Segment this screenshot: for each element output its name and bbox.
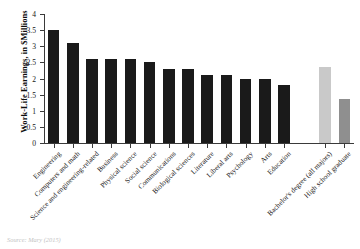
y-tick-mark	[40, 14, 45, 15]
y-tick-label: 4	[32, 10, 36, 19]
bar	[144, 62, 156, 143]
x-tick-mark	[111, 144, 112, 148]
bar	[163, 69, 175, 143]
bar	[201, 75, 213, 143]
x-tick-mark	[169, 144, 170, 148]
x-axis-category-label: Arts	[259, 150, 274, 165]
bar	[259, 79, 271, 144]
x-tick-mark	[265, 144, 266, 148]
y-tick-mark	[40, 62, 45, 63]
bar	[339, 99, 351, 143]
x-tick-mark	[130, 144, 131, 148]
y-tick-mark	[40, 46, 45, 47]
x-tick-mark	[92, 144, 93, 148]
x-tick-mark	[284, 144, 285, 148]
y-tick-mark	[40, 79, 45, 80]
y-tick-mark	[40, 143, 45, 144]
y-tick-label: 1	[32, 106, 36, 115]
bar	[221, 75, 233, 143]
bar	[105, 59, 117, 143]
y-tick-label: 1.5	[27, 90, 37, 99]
work-life-earnings-bar-chart: Work-Life Earnings, in $Millions 00.511.…	[0, 0, 360, 249]
bar	[240, 79, 252, 144]
y-tick-label: 2.5	[27, 58, 37, 67]
x-tick-mark	[246, 144, 247, 148]
x-tick-mark	[150, 144, 151, 148]
x-tick-mark	[188, 144, 189, 148]
bar	[86, 59, 98, 143]
y-tick-mark	[40, 95, 45, 96]
x-tick-mark	[54, 144, 55, 148]
x-tick-mark	[344, 144, 345, 148]
x-tick-mark	[207, 144, 208, 148]
bar	[67, 43, 79, 143]
y-tick-mark	[40, 127, 45, 128]
bar	[125, 59, 137, 143]
y-tick-mark	[40, 30, 45, 31]
x-tick-mark	[73, 144, 74, 148]
y-tick-label: 0.5	[27, 122, 37, 131]
y-tick-label: 3.5	[27, 26, 37, 35]
x-tick-mark	[325, 144, 326, 148]
x-axis-line	[44, 143, 354, 144]
y-tick-mark	[40, 111, 45, 112]
x-tick-mark	[226, 144, 227, 148]
bar	[182, 69, 194, 143]
bar	[48, 30, 60, 143]
y-tick-label: 3	[32, 42, 36, 51]
plot-area: 00.511.522.533.54 EngineeringComputers a…	[44, 14, 354, 143]
bar	[278, 85, 290, 143]
y-tick-label: 2	[32, 74, 36, 83]
figure-caption: Source: Mary (2015)	[7, 236, 61, 243]
y-tick-label: 0	[32, 139, 36, 148]
bar	[319, 67, 331, 143]
